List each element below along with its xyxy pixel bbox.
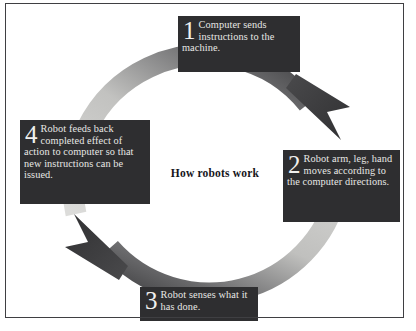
diagram-title: How robots work	[150, 167, 280, 179]
step-number-2: 2	[288, 154, 301, 175]
step-number-1: 1	[183, 20, 196, 41]
step-box-1: 1 Computer sends instructions to the mac…	[178, 16, 300, 72]
step-number-4: 4	[25, 124, 38, 145]
step-number-3: 3	[145, 290, 158, 311]
step-text-4: Robot feeds back completed effect of act…	[24, 123, 145, 181]
step-box-4: 4 Robot feeds back completed effect of a…	[20, 120, 150, 204]
arrowhead-to-step-2	[286, 74, 350, 140]
step-text-2: Robot arm, leg, hand moves according to …	[287, 153, 395, 188]
step-box-2: 2 Robot arm, leg, hand moves according t…	[283, 150, 400, 222]
figure-canvas: 1 Computer sends instructions to the mac…	[0, 0, 416, 331]
step-box-3: 3 Robot senses what it has done.	[140, 287, 258, 321]
step-text-3: Robot senses what it has done.	[144, 289, 253, 312]
step-text-1: Computer sends instructions to the machi…	[182, 19, 295, 54]
